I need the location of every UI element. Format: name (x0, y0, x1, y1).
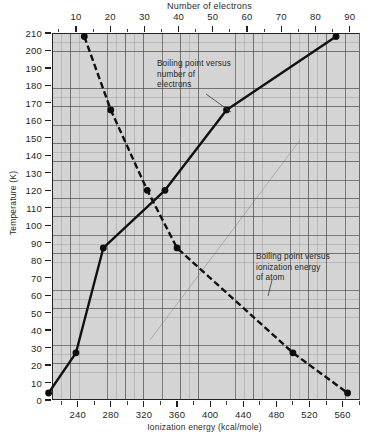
left-tick-label-100: 100 (6, 220, 42, 231)
top-minor-tick-75 (298, 29, 299, 33)
annotation-electrons: Boiling point versus number of electrons (157, 59, 231, 91)
top-tick-20 (110, 26, 111, 32)
bottom-tick-label-440: 440 (235, 409, 251, 420)
left-tick-label-80: 80 (6, 255, 42, 266)
top-tick-label-40: 40 (173, 11, 184, 22)
top-tick-label-30: 30 (139, 11, 150, 22)
left-tick-180 (45, 85, 51, 86)
top-tick-90 (349, 26, 350, 32)
left-tick-label-110: 110 (6, 202, 42, 213)
data-point-0-0 (45, 390, 52, 397)
chart-figure: Number of electrons Ionization energy (k… (0, 0, 379, 438)
bottom-axis-title: Ionization energy (kcal/mole) (0, 422, 379, 432)
left-tick-110 (45, 207, 51, 208)
left-tick-label-30: 30 (6, 342, 42, 353)
annotation-ionization-line1: Boiling point versus (256, 252, 330, 263)
top-tick-label-90: 90 (344, 11, 355, 22)
left-tick-label-190: 190 (6, 62, 42, 73)
left-tick-80 (45, 260, 51, 261)
left-tick-140 (45, 155, 51, 156)
left-tick-150 (45, 137, 51, 138)
bottom-minor-tick-540 (326, 401, 327, 405)
left-tick-label-180: 180 (6, 80, 42, 91)
top-minor-tick-65 (264, 29, 265, 33)
bottom-minor-tick-460 (259, 401, 260, 405)
annotation-ionization: Boiling point versus ionization energy o… (256, 252, 330, 284)
bottom-tick-320 (143, 401, 144, 407)
left-tick-label-150: 150 (6, 132, 42, 143)
left-tick-label-10: 10 (6, 377, 42, 388)
left-tick-label-160: 160 (6, 115, 42, 126)
left-tick-160 (45, 120, 51, 121)
annotation-electrons-line3: electrons (157, 80, 231, 91)
bottom-tick-520 (309, 401, 310, 407)
top-minor-tick-5 (58, 29, 59, 33)
bottom-tick-400 (210, 401, 211, 407)
top-tick-10 (75, 26, 76, 32)
left-tick-label-40: 40 (6, 325, 42, 336)
top-tick-50 (212, 26, 213, 32)
bottom-minor-tick-340 (160, 401, 161, 405)
left-tick-label-170: 170 (6, 97, 42, 108)
bottom-tick-label-360: 360 (169, 409, 185, 420)
bottom-tick-label-400: 400 (202, 409, 218, 420)
left-tick-30 (45, 347, 51, 348)
left-tick-50 (45, 312, 51, 313)
bottom-tick-label-480: 480 (268, 409, 284, 420)
bottom-tick-360 (176, 401, 177, 407)
left-tick-70 (45, 277, 51, 278)
left-tick-label-140: 140 (6, 150, 42, 161)
left-tick-label-90: 90 (6, 237, 42, 248)
top-minor-tick-35 (161, 29, 162, 33)
top-tick-30 (144, 26, 145, 32)
bottom-tick-560 (342, 401, 343, 407)
top-minor-tick-45 (195, 29, 196, 33)
left-tick-label-120: 120 (6, 185, 42, 196)
left-tick-20 (45, 364, 51, 365)
left-tick-label-200: 200 (6, 45, 42, 56)
top-minor-tick-15 (93, 29, 94, 33)
left-tick-60 (45, 295, 51, 296)
bottom-tick-440 (243, 401, 244, 407)
top-tick-40 (178, 26, 179, 32)
top-tick-label-10: 10 (70, 11, 81, 22)
top-minor-tick-55 (229, 29, 230, 33)
bottom-minor-tick-580 (359, 401, 360, 405)
left-tick-120 (45, 190, 51, 191)
left-tick-label-70: 70 (6, 272, 42, 283)
left-tick-100 (45, 225, 51, 226)
left-tick-label-0: 0 (6, 395, 42, 406)
top-tick-label-50: 50 (207, 11, 218, 22)
top-tick-60 (246, 26, 247, 32)
left-tick-label-50: 50 (6, 307, 42, 318)
left-tick-90 (45, 242, 51, 243)
bottom-minor-tick-380 (193, 401, 194, 405)
annotation-electrons-line1: Boiling point versus (157, 59, 231, 70)
left-tick-170 (45, 102, 51, 103)
bottom-minor-tick-420 (226, 401, 227, 405)
bottom-minor-tick-300 (127, 401, 128, 405)
bottom-tick-label-520: 520 (301, 409, 317, 420)
left-tick-40 (45, 329, 51, 330)
left-tick-label-20: 20 (6, 360, 42, 371)
bottom-minor-tick-220 (61, 401, 62, 405)
left-tick-0 (45, 399, 51, 400)
top-tick-label-80: 80 (310, 11, 321, 22)
bottom-tick-240 (77, 401, 78, 407)
top-tick-label-20: 20 (105, 11, 116, 22)
bottom-minor-tick-500 (292, 401, 293, 405)
top-tick-label-70: 70 (276, 11, 287, 22)
top-minor-tick-85 (332, 29, 333, 33)
annotation-ionization-line2: ionization energy (256, 263, 330, 274)
bottom-tick-label-560: 560 (334, 409, 350, 420)
bottom-tick-label-320: 320 (136, 409, 152, 420)
left-tick-10 (45, 382, 51, 383)
left-tick-130 (45, 172, 51, 173)
left-tick-label-130: 130 (6, 167, 42, 178)
top-tick-label-60: 60 (242, 11, 253, 22)
top-tick-80 (315, 26, 316, 32)
left-tick-190 (45, 67, 51, 68)
bottom-tick-label-240: 240 (69, 409, 85, 420)
top-axis-title: Number of electrons (0, 1, 379, 11)
left-tick-210 (45, 32, 51, 33)
